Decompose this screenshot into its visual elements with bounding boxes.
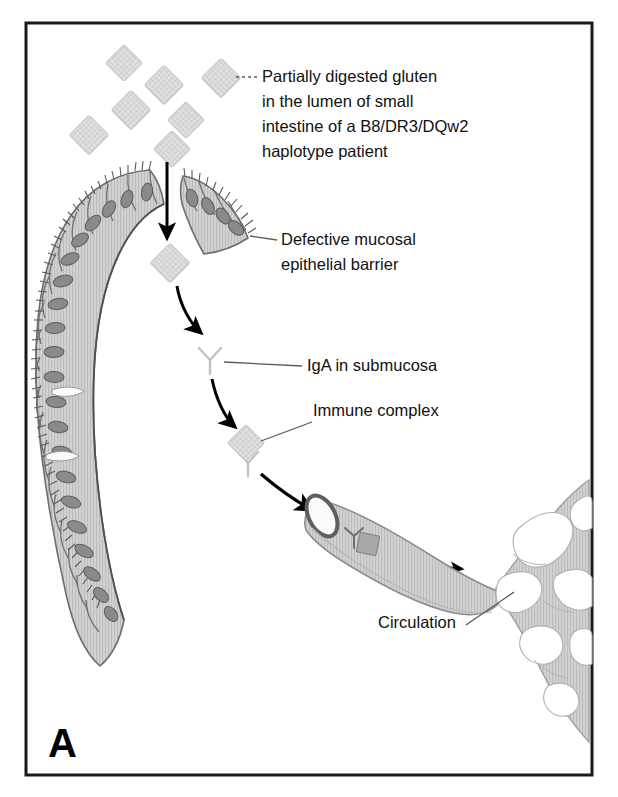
label-immune-complex: Immune complex	[313, 401, 439, 419]
diagram-canvas: Partially digested gluten in the lumen o…	[0, 0, 618, 797]
label-circulation: Circulation	[378, 613, 456, 631]
panel-letter-a: A	[48, 721, 77, 765]
label-iga-in-submucosa: IgA in submucosa	[307, 356, 438, 374]
immune-complex-in-vessel	[356, 532, 380, 556]
figure-frame	[26, 23, 592, 775]
figure-panel-a: Partially digested gluten in the lumen o…	[0, 0, 618, 797]
